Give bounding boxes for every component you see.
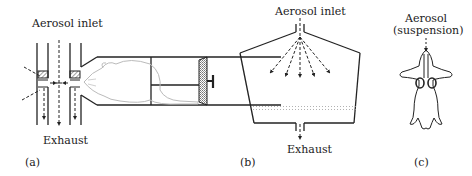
panel-a-inlet-label: Aerosol inlet	[32, 17, 103, 30]
panel-b-inlet-label: Aerosol inlet	[275, 5, 346, 18]
panel-b-caption: (b)	[240, 156, 256, 169]
panel-c-caption: (c)	[414, 156, 429, 169]
panel-b-whole-body-chamber	[240, 18, 360, 138]
panel-c-intratracheal	[400, 38, 452, 129]
panel-a-caption: (a)	[25, 156, 40, 169]
panel-c-label-line2: (suspension)	[393, 24, 459, 37]
panel-b-exhaust-label: Exhaust	[287, 143, 332, 156]
panel-a-exhaust-label: Exhaust	[43, 134, 88, 147]
